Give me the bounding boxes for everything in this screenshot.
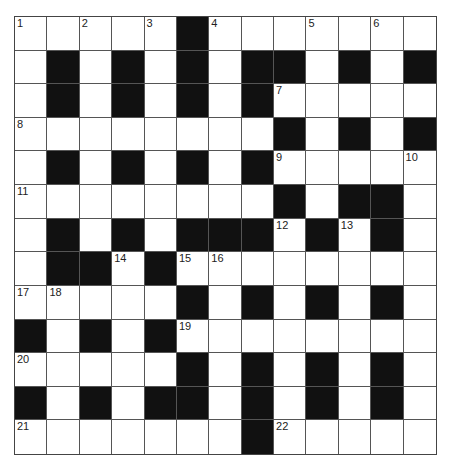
grid-cell[interactable]: [306, 118, 338, 152]
grid-cell[interactable]: 7: [274, 84, 306, 118]
grid-cell[interactable]: [242, 17, 274, 51]
grid-cell[interactable]: [339, 84, 371, 118]
grid-cell[interactable]: [145, 219, 177, 253]
grid-cell[interactable]: [371, 51, 403, 85]
grid-cell[interactable]: [47, 118, 79, 152]
grid-cell[interactable]: [80, 219, 112, 253]
grid-cell[interactable]: [339, 420, 371, 454]
grid-cell[interactable]: [47, 420, 79, 454]
grid-cell[interactable]: [371, 151, 403, 185]
grid-cell[interactable]: [404, 219, 436, 253]
grid-cell[interactable]: [209, 151, 241, 185]
grid-cell[interactable]: 22: [274, 420, 306, 454]
grid-cell[interactable]: [209, 84, 241, 118]
grid-cell[interactable]: [112, 17, 144, 51]
grid-cell[interactable]: 6: [371, 17, 403, 51]
grid-cell[interactable]: [306, 252, 338, 286]
grid-cell[interactable]: [15, 84, 47, 118]
grid-cell[interactable]: 18: [47, 286, 79, 320]
grid-cell[interactable]: [209, 320, 241, 354]
grid-cell[interactable]: [242, 118, 274, 152]
grid-cell[interactable]: 20: [15, 353, 47, 387]
grid-cell[interactable]: [47, 185, 79, 219]
grid-cell[interactable]: [209, 420, 241, 454]
grid-cell[interactable]: [15, 252, 47, 286]
grid-cell[interactable]: [80, 353, 112, 387]
grid-cell[interactable]: 14: [112, 252, 144, 286]
grid-cell[interactable]: [80, 118, 112, 152]
grid-cell[interactable]: [15, 219, 47, 253]
grid-cell[interactable]: [339, 151, 371, 185]
grid-cell[interactable]: [80, 151, 112, 185]
grid-cell[interactable]: [145, 420, 177, 454]
grid-cell[interactable]: [145, 185, 177, 219]
grid-cell[interactable]: [274, 320, 306, 354]
grid-cell[interactable]: [404, 185, 436, 219]
grid-cell[interactable]: [209, 286, 241, 320]
grid-cell[interactable]: [209, 118, 241, 152]
grid-cell[interactable]: [145, 286, 177, 320]
grid-cell[interactable]: [209, 185, 241, 219]
grid-cell[interactable]: 9: [274, 151, 306, 185]
grid-cell[interactable]: [145, 51, 177, 85]
grid-cell[interactable]: 10: [404, 151, 436, 185]
grid-cell[interactable]: [47, 387, 79, 421]
grid-cell[interactable]: [15, 151, 47, 185]
grid-cell[interactable]: 5: [306, 17, 338, 51]
grid-cell[interactable]: [112, 286, 144, 320]
grid-cell[interactable]: 8: [15, 118, 47, 152]
grid-cell[interactable]: [47, 17, 79, 51]
grid-cell[interactable]: 16: [209, 252, 241, 286]
grid-cell[interactable]: [274, 353, 306, 387]
grid-cell[interactable]: [404, 420, 436, 454]
grid-cell[interactable]: [209, 387, 241, 421]
grid-cell[interactable]: [371, 420, 403, 454]
grid-cell[interactable]: [47, 320, 79, 354]
grid-cell[interactable]: 13: [339, 219, 371, 253]
grid-cell[interactable]: [209, 353, 241, 387]
grid-cell[interactable]: [404, 84, 436, 118]
grid-cell[interactable]: [274, 17, 306, 51]
grid-cell[interactable]: [339, 252, 371, 286]
grid-cell[interactable]: [145, 84, 177, 118]
grid-cell[interactable]: [177, 118, 209, 152]
grid-cell[interactable]: 17: [15, 286, 47, 320]
grid-cell[interactable]: 21: [15, 420, 47, 454]
grid-cell[interactable]: [112, 387, 144, 421]
grid-cell[interactable]: [177, 185, 209, 219]
grid-cell[interactable]: [306, 51, 338, 85]
grid-cell[interactable]: [112, 420, 144, 454]
grid-cell[interactable]: [274, 387, 306, 421]
grid-cell[interactable]: [80, 51, 112, 85]
grid-cell[interactable]: [339, 17, 371, 51]
grid-cell[interactable]: [306, 84, 338, 118]
grid-cell[interactable]: [15, 51, 47, 85]
grid-cell[interactable]: [404, 320, 436, 354]
grid-cell[interactable]: [339, 353, 371, 387]
grid-cell[interactable]: 1: [15, 17, 47, 51]
grid-cell[interactable]: [145, 353, 177, 387]
grid-cell[interactable]: [404, 387, 436, 421]
grid-cell[interactable]: [339, 286, 371, 320]
grid-cell[interactable]: [404, 353, 436, 387]
grid-cell[interactable]: [306, 320, 338, 354]
grid-cell[interactable]: [112, 353, 144, 387]
grid-cell[interactable]: [371, 118, 403, 152]
grid-cell[interactable]: [112, 320, 144, 354]
grid-cell[interactable]: 15: [177, 252, 209, 286]
grid-cell[interactable]: [145, 151, 177, 185]
grid-cell[interactable]: [209, 51, 241, 85]
grid-cell[interactable]: [80, 420, 112, 454]
grid-cell[interactable]: [242, 185, 274, 219]
grid-cell[interactable]: [145, 118, 177, 152]
grid-cell[interactable]: [371, 252, 403, 286]
grid-cell[interactable]: [339, 320, 371, 354]
grid-cell[interactable]: 3: [145, 17, 177, 51]
grid-cell[interactable]: [274, 252, 306, 286]
grid-cell[interactable]: [274, 286, 306, 320]
grid-cell[interactable]: [47, 353, 79, 387]
grid-cell[interactable]: [242, 320, 274, 354]
grid-cell[interactable]: [404, 17, 436, 51]
grid-cell[interactable]: [306, 185, 338, 219]
grid-cell[interactable]: 4: [209, 17, 241, 51]
